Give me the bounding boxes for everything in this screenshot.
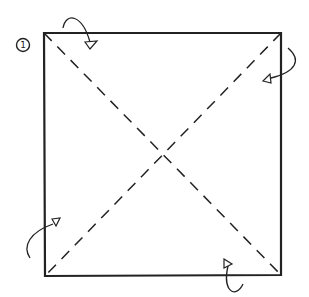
fold-arrow-bottom-left-icon <box>27 218 60 258</box>
diagonal-fold-line-tl-br <box>44 33 281 275</box>
fold-arrow-top-right-icon <box>263 48 295 83</box>
diagram-svg <box>0 0 309 297</box>
origami-diagram: 1 <box>0 0 309 297</box>
step-number: 1 <box>16 38 30 52</box>
